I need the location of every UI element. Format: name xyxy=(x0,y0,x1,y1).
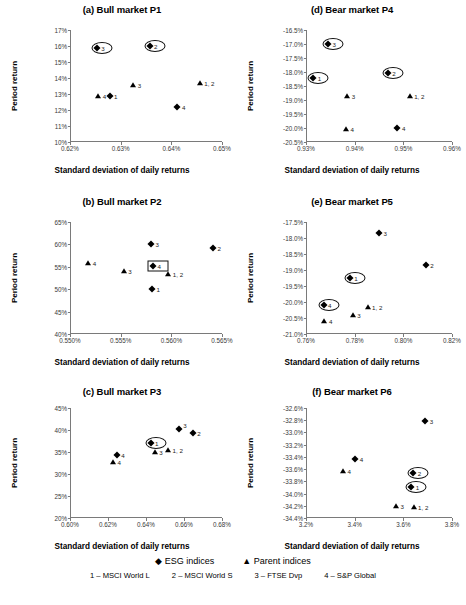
x-tick-mark xyxy=(70,334,71,337)
legend-marker-row: ◆ ESG indices▲ Parent indices xyxy=(0,556,466,566)
figure-root: (a) Bull market P1Period returnStandard … xyxy=(0,0,466,605)
plot-area-d: -16.5%-17.0%-17.5%-18.0%-18.5%-19.0%-19.… xyxy=(306,30,452,142)
y-tick-mark xyxy=(68,496,71,497)
data-point-parent xyxy=(393,504,399,509)
x-axis-label-d: Standard deviation of daily returns xyxy=(238,166,466,175)
x-tick-mark xyxy=(355,518,356,521)
x-tick-mark xyxy=(121,142,122,145)
data-point-parent xyxy=(411,504,417,509)
legend-key-4: 4 – S&P Global xyxy=(324,571,376,580)
figure-legend: ◆ ESG indices▲ Parent indices 1 – MSCI W… xyxy=(0,556,466,580)
data-point-label: 2 xyxy=(430,262,433,269)
y-tick-mark xyxy=(304,114,307,115)
y-tick-mark xyxy=(68,94,71,95)
data-point-label: 2 xyxy=(197,429,200,436)
data-point-label: 1, 2 xyxy=(204,79,214,86)
x-tick-mark xyxy=(222,518,223,521)
x-tick-mark xyxy=(452,518,453,521)
legend-key-3: 3 – FTSE Dvp xyxy=(254,571,302,580)
y-tick-mark xyxy=(68,222,71,223)
data-point-parent xyxy=(85,260,91,265)
x-tick-mark xyxy=(452,142,453,145)
x-tick-mark xyxy=(108,518,109,521)
x-tick-mark xyxy=(452,334,453,337)
x-axis-label-c: Standard deviation of daily returns xyxy=(8,542,236,551)
data-point-label: 3 xyxy=(101,45,104,52)
legend-key-1: 1 – MSCI World L xyxy=(90,571,150,580)
legend-key-2: 2 – MSCI World S xyxy=(172,571,233,580)
y-tick-mark xyxy=(68,289,71,290)
data-point-parent xyxy=(407,93,413,98)
data-point-label: 1, 2 xyxy=(173,271,183,278)
y-tick-mark xyxy=(68,452,71,453)
plot-frame-b xyxy=(70,222,222,334)
y-tick-mark xyxy=(68,110,71,111)
data-point-label: 1 xyxy=(157,286,160,293)
plot-area-b: 40%45%50%55%60%65%0.550%0.555%0.560%0.56… xyxy=(70,222,222,334)
data-point-label: 4 xyxy=(182,103,185,110)
y-tick-mark xyxy=(304,270,307,271)
y-tick-mark xyxy=(68,267,71,268)
diamond-marker-icon: ◆ xyxy=(155,556,162,566)
y-tick-mark xyxy=(68,244,71,245)
legend-entry-parent: ▲ Parent indices xyxy=(242,556,310,566)
panel-title-c: (c) Bull market P3 xyxy=(8,386,236,397)
x-tick-mark xyxy=(70,142,71,145)
y-tick-mark xyxy=(68,408,71,409)
x-tick-mark xyxy=(403,142,404,145)
y-tick-mark xyxy=(68,46,71,47)
y-tick-mark xyxy=(304,420,307,421)
y-tick-mark xyxy=(304,469,307,470)
plot-area-f: -32.6%-32.8%-33.0%-33.2%-33.4%-33.6%-33.… xyxy=(306,408,452,518)
chart-panel-a: (a) Bull market P1Period returnStandard … xyxy=(8,4,236,192)
data-point-parent xyxy=(340,468,346,473)
y-tick-mark xyxy=(304,457,307,458)
x-tick-mark xyxy=(184,518,185,521)
data-point-label: 1 xyxy=(114,93,117,100)
data-point-label: 2 xyxy=(418,469,421,476)
legend-entry-esg: ◆ ESG indices xyxy=(155,556,214,566)
y-tick-mark xyxy=(304,302,307,303)
y-axis-label-a: Period return xyxy=(10,61,19,111)
y-tick-mark xyxy=(304,72,307,73)
x-tick-mark xyxy=(403,518,404,521)
data-point-label: 4 xyxy=(121,451,124,458)
chart-panel-c: (c) Bull market P3Period returnStandard … xyxy=(8,386,236,556)
data-point-parent xyxy=(130,82,136,87)
y-tick-mark xyxy=(68,312,71,313)
data-point-label: 4 xyxy=(103,93,106,100)
panel-title-f: (f) Bear market P6 xyxy=(238,386,466,397)
y-axis-label-d: Period return xyxy=(246,61,255,111)
data-point-label: 4 xyxy=(328,302,331,309)
chart-panel-e: (e) Bear market P5Period returnStandard … xyxy=(238,196,466,384)
data-point-label: 3 xyxy=(159,449,162,456)
chart-panel-b: (b) Bull market P2Period returnStandard … xyxy=(8,196,236,384)
x-tick-mark xyxy=(403,334,404,337)
data-point-label: 3 xyxy=(128,267,131,274)
data-point-label: 2 xyxy=(154,43,157,50)
y-tick-mark xyxy=(304,30,307,31)
y-tick-mark xyxy=(304,58,307,59)
data-point-label: 4 xyxy=(329,318,332,325)
panel-title-b: (b) Bull market P2 xyxy=(8,196,236,207)
x-tick-mark xyxy=(121,334,122,337)
plot-area-c: 20%25%30%35%40%45%0.60%0.62%0.64%0.66%0.… xyxy=(70,408,222,518)
x-tick-mark xyxy=(171,334,172,337)
x-axis-label-e: Standard deviation of daily returns xyxy=(238,358,466,367)
legend-key-row: 1 – MSCI World L2 – MSCI World S3 – FTSE… xyxy=(0,571,466,580)
legend-label: Parent indices xyxy=(254,556,311,566)
y-axis-label-e: Period return xyxy=(246,253,255,303)
data-point-label: 1 xyxy=(318,74,321,81)
data-point-label: 4 xyxy=(158,262,161,269)
data-point-label: 1, 2 xyxy=(372,303,382,310)
data-point-parent xyxy=(110,459,116,464)
data-point-label: 4 xyxy=(350,126,353,133)
data-point-label: 3 xyxy=(156,240,159,247)
data-point-label: 1 xyxy=(155,439,158,446)
y-tick-mark xyxy=(304,100,307,101)
y-tick-mark xyxy=(68,30,71,31)
x-axis-label-f: Standard deviation of daily returns xyxy=(238,542,466,551)
y-tick-mark xyxy=(304,86,307,87)
panel-title-d: (d) Bear market P4 xyxy=(238,4,466,15)
y-tick-mark xyxy=(304,238,307,239)
